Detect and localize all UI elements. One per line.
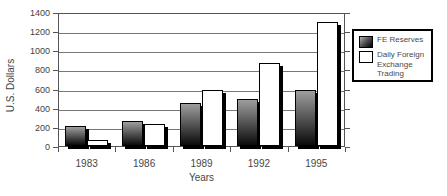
axis-tick <box>230 147 231 152</box>
bar-fe-reserves-1983 <box>65 126 86 146</box>
legend: FE Reserves Daily Foreign Exchange Tradi… <box>352 29 433 82</box>
legend-item-daily-foreign-exchange-trading: Daily Foreign Exchange Trading <box>359 50 427 79</box>
x-category-label: 1992 <box>237 158 281 169</box>
bar-daily-foreign-exchange-trading-1986 <box>144 124 165 146</box>
axis-tick <box>345 109 350 110</box>
x-category-label: 1983 <box>65 158 109 169</box>
bar-fe-reserves-1995 <box>295 90 316 146</box>
bar-daily-foreign-exchange-trading-1992 <box>259 63 280 146</box>
legend-item-fe-reserves: FE Reserves <box>359 35 427 48</box>
fe-reserves-swatch-icon <box>359 36 373 48</box>
axis-tick <box>115 147 116 152</box>
y-tick-label: 800 <box>10 65 50 75</box>
bar-fe-reserves-1989 <box>180 103 201 146</box>
axis-tick <box>53 51 58 52</box>
axis-tick <box>345 90 350 91</box>
daily-fx-trading-swatch-icon <box>359 51 373 63</box>
legend-label: Daily Foreign Exchange Trading <box>377 50 427 79</box>
y-tick-label: 600 <box>10 85 50 95</box>
gridline <box>59 52 344 53</box>
y-tick-label: 1400 <box>10 8 50 18</box>
axis-tick <box>345 51 350 52</box>
bar-chart: U.S. Dollars Years FE Reserves Daily For… <box>0 0 447 196</box>
y-tick-label: 400 <box>10 104 50 114</box>
bar-daily-foreign-exchange-trading-1983 <box>87 140 108 146</box>
axis-tick <box>345 128 350 129</box>
bar-daily-foreign-exchange-trading-1995 <box>317 22 338 146</box>
axis-tick <box>345 70 350 71</box>
axis-tick <box>288 147 289 152</box>
axis-tick <box>58 147 59 152</box>
axis-tick <box>345 32 350 33</box>
x-category-label: 1986 <box>122 158 166 169</box>
axis-tick <box>53 32 58 33</box>
axis-tick <box>53 128 58 129</box>
y-tick-label: 0 <box>10 142 50 152</box>
y-tick-label: 200 <box>10 123 50 133</box>
axis-tick <box>345 13 350 14</box>
bar-daily-foreign-exchange-trading-1989 <box>202 90 223 146</box>
x-axis-title: Years <box>58 172 345 183</box>
gridline <box>59 33 344 34</box>
x-category-label: 1989 <box>180 158 224 169</box>
x-category-label: 1995 <box>294 158 338 169</box>
y-tick-label: 1000 <box>10 46 50 56</box>
axis-tick <box>53 13 58 14</box>
gridline <box>59 71 344 72</box>
y-tick-label: 1200 <box>10 27 50 37</box>
axis-tick <box>345 147 346 152</box>
plot-area <box>58 13 345 147</box>
axis-tick <box>53 70 58 71</box>
bar-fe-reserves-1986 <box>122 121 143 146</box>
bar-fe-reserves-1992 <box>237 99 258 146</box>
axis-tick <box>53 90 58 91</box>
axis-tick <box>53 109 58 110</box>
axis-tick <box>173 147 174 152</box>
legend-label: FE Reserves <box>377 35 423 45</box>
